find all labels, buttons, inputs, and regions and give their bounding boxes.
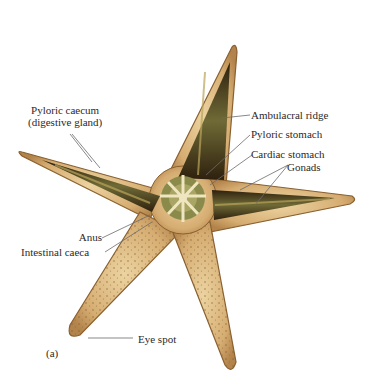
sea-star-illustration: [0, 0, 370, 392]
label-pyloric-stomach: Pyloric stomach: [251, 128, 322, 140]
label-intestinal-caeca: Intestinal caeca: [21, 246, 89, 258]
label-anus: Anus: [64, 231, 102, 243]
label-pyloric-caecum-line2: (digestive gland): [28, 116, 102, 128]
label-eye-spot: Eye spot: [138, 333, 176, 345]
label-gonads: Gonads: [287, 161, 321, 173]
label-pyloric-caecum-line1: Pyloric caecum: [28, 104, 102, 116]
label-ambulacral-ridge: Ambulacral ridge: [251, 109, 328, 121]
label-pyloric-caecum: Pyloric caecum (digestive gland): [28, 104, 102, 128]
label-cardiac-stomach: Cardiac stomach: [251, 148, 325, 160]
panel-label: (a): [46, 347, 58, 359]
